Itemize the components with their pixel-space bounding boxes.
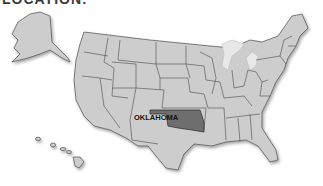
oklahoma-label: OKLAHOMA [134, 113, 179, 122]
alaska-inset [12, 12, 70, 62]
hawaii-inset [36, 137, 85, 168]
contiguous-us [74, 14, 308, 170]
us-map: OKLAHOMA [0, 0, 323, 186]
